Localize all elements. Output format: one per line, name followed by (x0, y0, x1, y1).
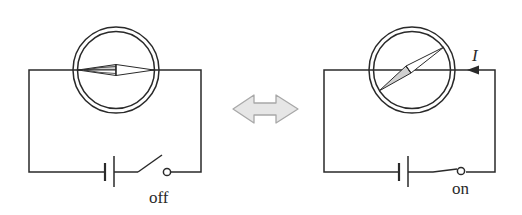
current-label: I (471, 46, 479, 65)
right-wire (324, 70, 495, 172)
right-switch-terminal (457, 167, 464, 174)
double-headed-arrow-icon (233, 95, 298, 123)
right-circuit-on (324, 27, 495, 187)
left-circuit-off (29, 27, 201, 187)
current-direction-arrow-icon (467, 66, 479, 75)
oersted-diagram: off I on (0, 0, 522, 215)
left-compass-needle-icon (78, 65, 154, 76)
right-switch-label: on (452, 179, 470, 198)
left-switch-blade (138, 155, 162, 172)
left-switch-label: off (149, 188, 169, 207)
left-wire (29, 70, 201, 172)
right-wire-battery-switch (408, 169, 457, 172)
right-compass-needle-icon (379, 47, 444, 91)
left-switch-terminal (163, 168, 170, 175)
